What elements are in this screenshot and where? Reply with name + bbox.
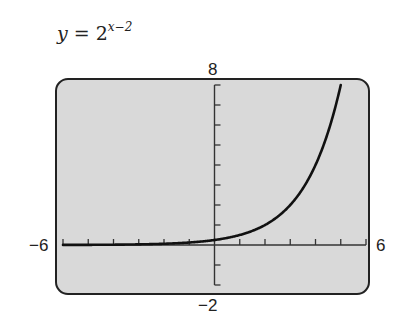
ymax-label: 8 [208, 60, 217, 80]
xmax-label: 6 [376, 236, 385, 256]
ymin-label: −2 [198, 296, 217, 316]
calculator-graph [0, 0, 404, 334]
calculator-screen [56, 79, 369, 294]
xmin-label: −6 [29, 236, 48, 256]
